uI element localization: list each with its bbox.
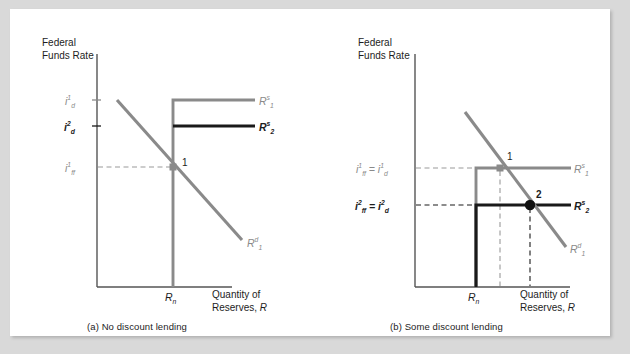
y-axis-title-line2-b: Funds Rate [358,50,410,61]
x-axis-title-line1-b: Quantity of [520,289,568,300]
x-axis-title-line2-a: Reserves, R [212,302,267,313]
curve-label-r1s-a: Rs1 [259,94,274,109]
x-label-rn-a: Rn [165,291,176,305]
point-label-1-a: 1 [182,157,188,168]
y-label-i1d-a: i1d [65,94,75,109]
x-axis-title-b: Quantity of Reserves, R [520,289,575,314]
x-label-rn-b: Rn [468,291,479,305]
equilibrium-point-1-b [497,165,504,172]
y-label-i1ff-a: i1ff [65,161,75,176]
point-label-1-b: 1 [507,151,513,162]
y-axis-title-line1-b: Federal [358,37,392,48]
supply-curve-r2s-b [476,205,571,287]
equilibrium-point-2-b [525,200,535,210]
panel-b-plot [308,9,610,309]
panel-b-caption: (b) Some discount lending [390,321,503,332]
x-axis-title-a: Quantity of Reserves, R [212,289,267,314]
curve-label-r2s-a: Rs2 [259,120,274,135]
curve-label-r1d-b: Rd1 [570,242,585,257]
panel-no-discount-lending: Federal Funds Rate i1d i2d i1ff Rs1 Rs2 … [10,9,310,336]
y-axis-title-a: Federal Funds Rate [42,37,94,62]
y-axis-title-b: Federal Funds Rate [358,37,410,62]
supply-curve-r1s-a [173,100,255,287]
y-label-i1ff-i1d-b: i1ff = i1d [356,162,388,177]
y-axis-title-line2-a: Funds Rate [42,50,94,61]
equilibrium-point-1-a [170,164,177,171]
demand-curve-r1d-a [117,100,242,240]
curve-label-r2s-b: Rs2 [574,199,589,214]
x-axis-title-line1-a: Quantity of [212,289,260,300]
curve-label-r1d-a: Rd1 [247,236,262,251]
y-label-i2ff-i2d-b: i2ff = i2d [355,199,389,214]
point-label-2-b: 2 [536,189,542,200]
panel-a-caption: (a) No discount lending [87,321,187,332]
y-axis-title-line1-a: Federal [42,37,76,48]
demand-curve-r1d-b [465,112,566,247]
curve-label-r1s-b: Rs1 [574,162,589,177]
panel-some-discount-lending: Federal Funds Rate i1ff = i1d i2ff = i2d… [308,9,608,336]
y-label-i2d-a: i2d [64,120,75,135]
figure-frame: Federal Funds Rate i1d i2d i1ff Rs1 Rs2 … [10,9,610,336]
supply-curve-r1s-b [476,168,571,287]
x-axis-title-line2-b: Reserves, R [520,302,575,313]
